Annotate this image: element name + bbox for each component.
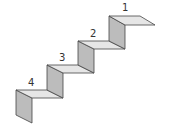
step-4-label: 4 (28, 77, 34, 88)
step-2-label: 2 (90, 28, 96, 39)
staircase-diagram: 4 3 2 1 (0, 0, 172, 137)
step-3-label: 3 (59, 52, 65, 63)
step-1: 1 (109, 2, 155, 49)
step-1-label: 1 (122, 2, 128, 13)
